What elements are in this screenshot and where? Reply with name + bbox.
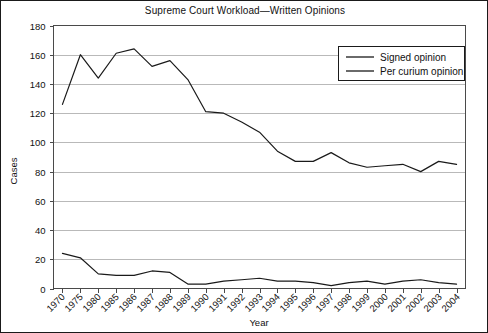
x-tick-label-1998: 1998 [331, 291, 354, 314]
y-tick-label-20: 20 [35, 254, 46, 265]
x-tick-label-1996: 1996 [295, 291, 318, 314]
y-axis-ticks-group: 020406080100120140160180 [30, 21, 54, 295]
y-tick-label-160: 160 [30, 50, 46, 61]
y-axis-title: Cases [8, 157, 19, 184]
x-tick-label-2000: 2000 [367, 291, 390, 314]
y-tick-label-80: 80 [35, 167, 46, 178]
chart-legend: Signed opinion Per curium opinion [339, 47, 465, 81]
x-tick-label-2003: 2003 [421, 291, 444, 314]
x-axis-title: Year [249, 317, 268, 328]
x-tick-label-1987: 1987 [134, 291, 157, 314]
x-tick-label-1994: 1994 [259, 291, 282, 314]
x-tick-label-2004: 2004 [439, 291, 462, 314]
x-tick-label-1991: 1991 [206, 291, 229, 314]
x-tick-label-1970: 1970 [44, 291, 67, 314]
y-tick-label-40: 40 [35, 225, 46, 236]
x-tick-label-1990: 1990 [188, 291, 211, 314]
x-tick-label-1989: 1989 [170, 291, 193, 314]
x-tick-label-2002: 2002 [403, 291, 426, 314]
x-tick-label-1999: 1999 [349, 291, 372, 314]
chart-plot-area: 020406080100120140160180 197019751980198… [1, 1, 488, 333]
chart-figure: Supreme Court Workload—Written Opinions … [0, 0, 488, 333]
x-tick-label-1975: 1975 [62, 291, 85, 314]
legend-label-signed-opinion: Signed opinion [380, 52, 446, 63]
gridlines-group [54, 56, 466, 260]
y-tick-label-0: 0 [40, 284, 45, 295]
x-tick-label-1980: 1980 [80, 291, 103, 314]
x-tick-label-1986: 1986 [116, 291, 139, 314]
x-tick-label-2001: 2001 [385, 291, 408, 314]
y-tick-label-60: 60 [35, 196, 46, 207]
x-tick-label-1985: 1985 [98, 291, 121, 314]
x-tick-label-1997: 1997 [313, 291, 336, 314]
y-tick-label-120: 120 [30, 108, 46, 119]
x-axis-ticks-group: 1970197519801985198619871988198919901991… [44, 289, 462, 314]
series-line-per-curium-opinion [62, 253, 456, 285]
y-tick-label-140: 140 [30, 79, 46, 90]
x-tick-label-1992: 1992 [224, 291, 247, 314]
y-tick-label-100: 100 [30, 137, 46, 148]
x-tick-label-1988: 1988 [152, 291, 175, 314]
y-tick-label-180: 180 [30, 21, 46, 32]
x-tick-label-1995: 1995 [277, 291, 300, 314]
legend-label-per-curium-opinion: Per curium opinion [380, 66, 463, 77]
